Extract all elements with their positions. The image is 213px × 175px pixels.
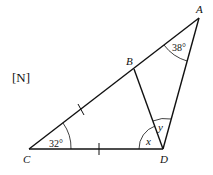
tick-mark-cb xyxy=(78,104,84,115)
angle-arc-c xyxy=(63,123,71,149)
angle-label-c: 32° xyxy=(49,138,63,149)
point-label-c: C xyxy=(23,153,31,165)
problem-tag: [N] xyxy=(12,70,30,85)
point-label-b: B xyxy=(126,55,133,67)
point-label-a: A xyxy=(195,3,203,15)
segment-ca xyxy=(29,18,199,149)
segment-da xyxy=(163,18,199,149)
angle-label-x: x xyxy=(145,135,151,147)
triangle-diagram: A B C D 38° 32° x y [N] xyxy=(0,0,213,175)
point-label-d: D xyxy=(159,153,168,165)
angle-label-y: y xyxy=(157,121,163,133)
angle-label-a: 38° xyxy=(172,42,186,53)
